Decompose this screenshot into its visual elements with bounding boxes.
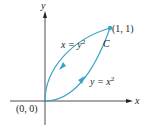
arrow-up-right-icon	[78, 76, 85, 84]
x-axis-label: x	[134, 95, 140, 106]
y-axis-label: y	[40, 0, 46, 11]
equation-upper-text: x = y	[60, 39, 82, 50]
y-axis-arrow-icon	[43, 11, 47, 18]
equation-upper-label: x = y2	[60, 38, 86, 50]
point-label: (1, 1)	[112, 23, 134, 35]
diagram-canvas: y x (0, 0) (1, 1) C x = y2 y = x2	[0, 0, 146, 130]
curve-c-label: C	[103, 38, 110, 49]
equation-upper-exponent: 2	[82, 38, 86, 46]
equation-lower-text: y = x	[89, 76, 111, 87]
equation-lower-label: y = x2	[89, 75, 115, 87]
arrow-down-left-icon	[59, 62, 66, 70]
equation-lower-exponent: 2	[111, 75, 115, 83]
origin-label: (0, 0)	[16, 103, 38, 115]
x-axis-arrow-icon	[126, 99, 133, 103]
